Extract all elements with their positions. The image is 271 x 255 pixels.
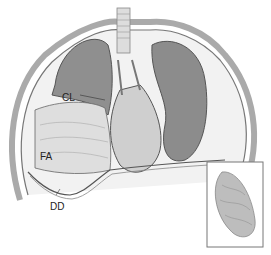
label-dd: DD: [50, 202, 64, 212]
fat-area: [35, 102, 111, 173]
anatomical-illustration: CL FA DD: [0, 0, 271, 255]
label-cl: CL: [62, 93, 75, 103]
label-fa: FA: [40, 152, 52, 162]
trachea: [117, 8, 130, 53]
thorax-drawing: [0, 0, 271, 255]
